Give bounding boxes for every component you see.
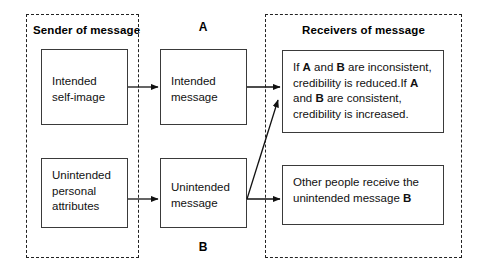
credibility-line2-mid: and [293,92,315,104]
label-letter-b: B [159,240,247,254]
credibility-line1-a: A [303,61,311,73]
box-intended-message-text: Intended message [171,74,239,105]
credibility-line1-pre: If [293,61,303,73]
group-receivers-title: Receivers of message [265,24,462,36]
credibility-line2-pre: If [400,77,410,89]
box-credibility-outcome-text: If A and B are inconsistent, credibility… [293,60,436,122]
group-sender-title: Sender of message [33,24,140,36]
box-other-people: Other people receive the unintended mess… [282,165,444,225]
credibility-line2-b: B [315,92,323,104]
box-unintended-message-text: Unintended message [171,180,239,211]
credibility-line1-mid: and [311,61,337,73]
box-unintended-personal-attributes: Unintended personal attributes [41,158,128,228]
box-credibility-outcome: If A and B are inconsistent, credibility… [282,50,444,133]
label-letter-a: A [159,20,247,34]
box-other-people-text: Other people receive the unintended mess… [293,175,436,206]
box-unintended-personal-attributes-text: Unintended personal attributes [52,168,120,215]
box-intended-message: Intended message [160,49,247,125]
communication-model-diagram: Sender of message Receivers of message A… [0,0,484,275]
credibility-line2-a: A [410,77,418,89]
box-unintended-message: Unintended message [160,158,247,228]
box-intended-self-image: Intended self-image [41,49,128,125]
box-intended-self-image-text: Intended self-image [52,74,120,105]
credibility-line1-b: B [336,61,344,73]
other-people-text-b: B [403,192,411,204]
other-people-text-pre: Other people receive the unintended mess… [293,176,419,204]
